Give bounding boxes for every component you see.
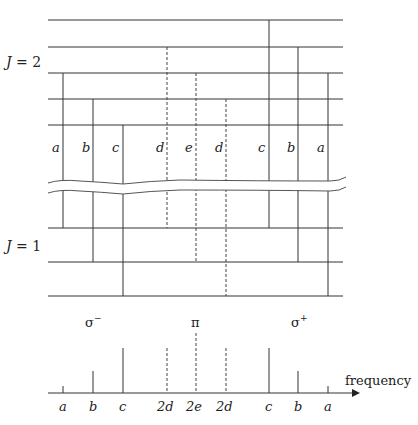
label-a-right: a: [317, 140, 325, 155]
frequency-axis-label: frequency: [345, 373, 412, 388]
sigma-plus-label: σ+: [291, 313, 307, 330]
axis-arrow-icon: [352, 389, 360, 397]
pi-label: π: [191, 315, 200, 330]
label-e: e: [185, 140, 193, 155]
label-d-left: d: [156, 140, 164, 155]
sigma-minus-label: σ−: [85, 313, 101, 330]
upper-level-label: J = 2: [3, 54, 41, 70]
label-b-left: b: [82, 140, 90, 155]
tick-a-left: a: [59, 399, 67, 414]
label-d-right: d: [215, 140, 223, 155]
lower-level-label: J = 1: [3, 238, 41, 254]
tick-b-left: b: [89, 399, 97, 414]
tick-2e: 2e: [185, 399, 202, 414]
tick-2d-left: 2d: [156, 399, 174, 414]
tick-c-left: c: [119, 399, 127, 414]
label-b-right: b: [287, 140, 295, 155]
label-c-left: c: [112, 140, 120, 155]
label-a-left: a: [52, 140, 60, 155]
transitions: [63, 20, 328, 296]
label-c-right: c: [258, 140, 266, 155]
tick-a-right: a: [324, 399, 332, 414]
spectrum: a b c 2d 2e 2d c b a frequency: [48, 333, 412, 414]
zeeman-diagram: J = 2 J = 1 a b c d e d c b a σ− π σ+ a …: [0, 0, 418, 425]
tick-2d-right: 2d: [215, 399, 233, 414]
tick-c-right: c: [265, 399, 273, 414]
tick-b-right: b: [294, 399, 302, 414]
